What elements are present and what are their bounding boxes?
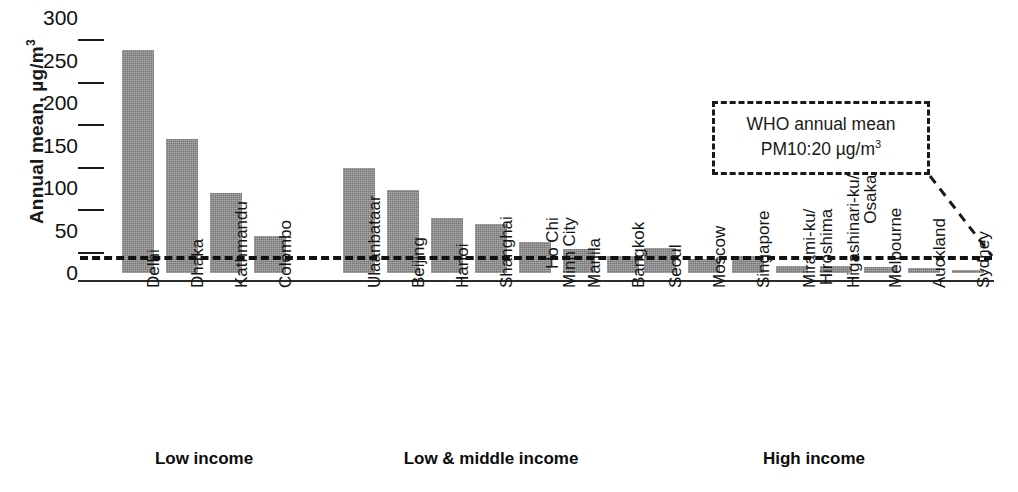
who-annotation-line-1: WHO annual mean bbox=[721, 113, 921, 137]
y-axis-tick-marks bbox=[78, 0, 104, 492]
y-tick-label-300: 300 bbox=[32, 7, 78, 28]
category-label: Mirami-ku/ Hiroshima bbox=[801, 209, 836, 288]
y-tick-mark bbox=[78, 82, 104, 84]
category-label: Higashinari-ku/ Osaka bbox=[845, 175, 880, 288]
category-label: Seoul bbox=[667, 245, 684, 288]
y-tick-label-150: 150 bbox=[32, 135, 78, 156]
y-tick-mark bbox=[78, 39, 104, 41]
who-annotation-line-2-text: PM10:20 µg/m bbox=[761, 138, 875, 158]
category-label: Auckland bbox=[931, 218, 948, 288]
category-label: Colombo bbox=[277, 220, 294, 288]
category-label: Kathmandu bbox=[233, 201, 250, 288]
category-label: Ho Chi Minh City bbox=[544, 217, 579, 288]
pm10-bar-chart: Annual mean, µg/m3 050100150200250300 De… bbox=[0, 0, 1018, 492]
who-annotation-line-2: PM10:20 µg/m3 bbox=[721, 137, 921, 161]
who-annotation-box: WHO annual mean PM10:20 µg/m3 bbox=[712, 101, 930, 175]
category-label: Beijing bbox=[410, 237, 427, 288]
y-tick-label-100: 100 bbox=[32, 177, 78, 198]
category-label: Hanoi bbox=[454, 244, 471, 288]
category-label: Manila bbox=[586, 238, 603, 288]
group-label: Low income bbox=[122, 449, 286, 469]
group-label: High income bbox=[644, 449, 984, 469]
category-label: Sydney bbox=[975, 231, 992, 288]
y-tick-mark bbox=[78, 124, 104, 126]
category-label: Moscow bbox=[711, 226, 728, 288]
category-label: Delhi bbox=[145, 249, 162, 288]
category-label: Ulaanbataar bbox=[366, 195, 383, 288]
who-annotation-exponent: 3 bbox=[875, 138, 881, 150]
y-tick-mark bbox=[78, 167, 104, 169]
category-label: Melbourne bbox=[887, 208, 904, 288]
y-tick-label-50: 50 bbox=[32, 220, 78, 241]
y-tick-label-200: 200 bbox=[32, 92, 78, 113]
category-label: Dhaka bbox=[189, 239, 206, 288]
y-tick-mark bbox=[78, 209, 104, 211]
y-tick-label-0: 0 bbox=[32, 262, 78, 283]
group-label: Low & middle income bbox=[343, 449, 639, 469]
bar bbox=[122, 50, 154, 273]
category-label: Singapore bbox=[755, 210, 772, 288]
category-label: Shanghai bbox=[498, 216, 515, 288]
y-tick-mark bbox=[78, 252, 104, 254]
y-axis-tick-labels: 050100150200250300 bbox=[32, 0, 78, 492]
category-label: Bangkok bbox=[630, 222, 647, 288]
y-tick-label-250: 250 bbox=[32, 50, 78, 71]
